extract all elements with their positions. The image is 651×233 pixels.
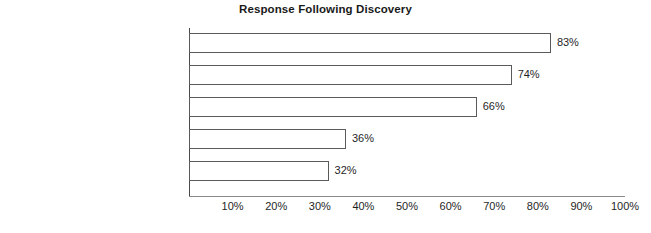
bar[interactable] [189, 129, 346, 149]
bar-value-label: 83% [557, 37, 579, 48]
bar-chart: Response Following Discovery Investigati… [0, 0, 651, 233]
x-axis-tick-label: 80% [516, 201, 560, 212]
bar-value-label: 32% [335, 165, 357, 176]
x-axis-tick-label: 100% [603, 201, 647, 212]
x-axis-tick-label: 60% [429, 201, 473, 212]
x-axis-tick-label: 70% [472, 201, 516, 212]
bar[interactable] [189, 97, 477, 117]
bar[interactable] [189, 161, 329, 181]
bar[interactable] [189, 33, 551, 53]
x-axis-tick-label: 40% [341, 201, 385, 212]
bar-value-label: 36% [352, 133, 374, 144]
bar-value-label: 74% [518, 69, 540, 80]
x-axis-tick-label: 30% [298, 201, 342, 212]
chart-title: Response Following Discovery [0, 3, 651, 15]
bar-value-label: 66% [483, 101, 505, 112]
x-axis-tick-label: 10% [211, 201, 255, 212]
x-axis-line [189, 196, 625, 197]
x-axis-tick-label: 90% [559, 201, 603, 212]
x-axis-tick-label: 20% [254, 201, 298, 212]
bar[interactable] [189, 65, 512, 85]
x-axis-tick-label: 50% [385, 201, 429, 212]
